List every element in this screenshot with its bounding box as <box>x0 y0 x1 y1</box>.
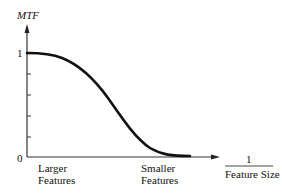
x-axis-arrow-icon <box>211 155 220 160</box>
x-annotation-smaller-line1: Smaller <box>141 162 175 174</box>
y-tick-label-1: 1 <box>17 47 23 59</box>
mtf-curve <box>27 53 190 156</box>
x-annotation-smaller-line2: Features <box>141 174 178 186</box>
x-axis-label-denominator: Feature Size <box>225 168 280 180</box>
x-annotation-larger-line1: Larger <box>38 162 67 174</box>
x-annotation-larger-line2: Features <box>38 174 75 186</box>
x-axis-label-numerator: 1 <box>246 153 252 165</box>
y-tick-label-0: 0 <box>17 152 23 164</box>
y-axis-arrow-icon <box>25 24 30 33</box>
y-axis-label: MTF <box>17 9 39 21</box>
